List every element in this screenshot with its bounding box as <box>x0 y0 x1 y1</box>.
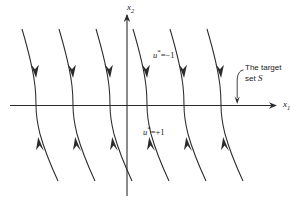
figure-canvas <box>0 0 298 205</box>
target-set-annotation-line1: The target <box>245 63 281 73</box>
target-set-annotation: The target set S <box>245 63 281 84</box>
upper-trajectory-3 <box>96 29 110 105</box>
lower-trajectories <box>36 105 243 181</box>
x2-axis-label: x2 <box>127 3 134 14</box>
upper-trajectory-1 <box>22 29 36 105</box>
arrowhead-down-2 <box>68 64 76 78</box>
control-label-lower: u*=+1 <box>143 126 165 136</box>
arrowhead-down-1 <box>31 64 39 78</box>
upper-trajectory-5 <box>170 29 184 105</box>
arrowhead-down-6 <box>216 64 224 78</box>
target-set-annotation-line2: set S <box>245 73 281 84</box>
target-set-leader <box>235 70 244 104</box>
upper-trajectory-4 <box>133 29 147 105</box>
lower-arrowheads <box>36 137 229 151</box>
upper-trajectory-2 <box>59 29 73 105</box>
upper-trajectory-6 <box>207 29 221 105</box>
upper-trajectories <box>22 29 221 105</box>
arrowhead-down-5 <box>179 64 187 78</box>
axis-group <box>10 15 276 196</box>
control-label-upper: u*=−1 <box>153 49 175 59</box>
arrowhead-down-3 <box>105 64 113 78</box>
phase-plane-figure: x2 x1 u*=−1 u*=+1 The target set S <box>0 0 298 205</box>
arrowhead-down-4 <box>142 64 150 78</box>
leader-curve <box>237 70 243 80</box>
x1-axis-label: x1 <box>283 100 290 111</box>
